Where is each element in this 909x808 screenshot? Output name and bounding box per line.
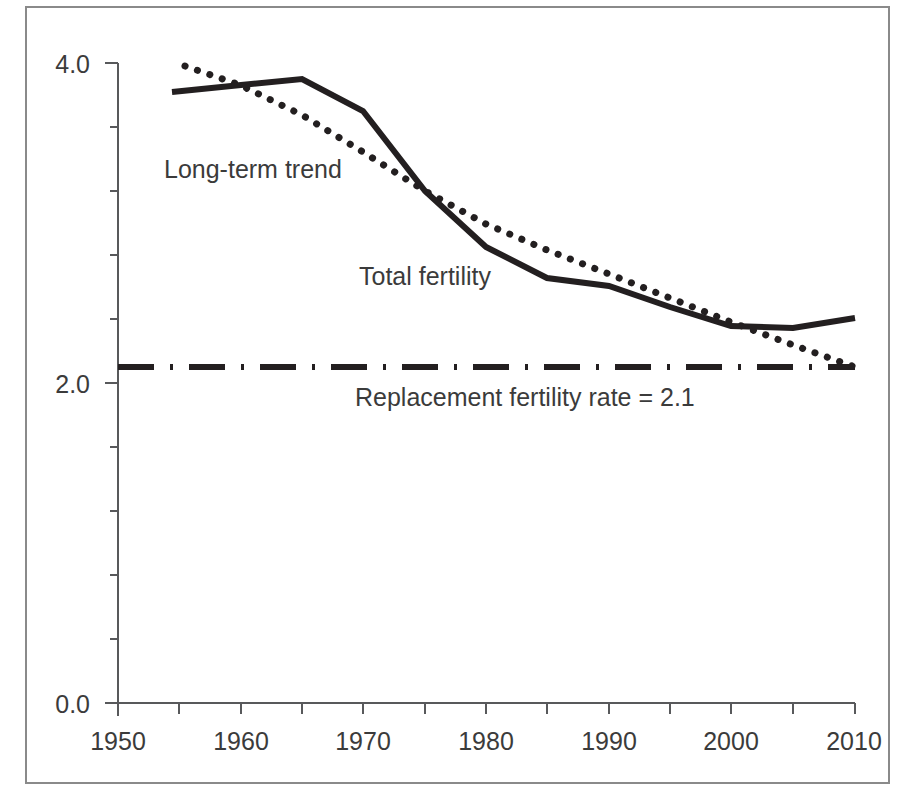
x-tick-label-1990: 1990 — [564, 727, 654, 756]
fertility-chart-figure: 4.0 2.0 0.0 1950 1960 1970 1980 1990 200… — [0, 0, 909, 808]
x-tick-label-2000: 2000 — [686, 727, 776, 756]
series-long-term-trend — [185, 66, 855, 367]
x-tick-label-1980: 1980 — [441, 727, 531, 756]
y-tick-label-2: 2.0 — [10, 370, 90, 399]
x-tick-label-1950: 1950 — [73, 727, 163, 756]
y-tick-label-4: 4.0 — [10, 50, 90, 79]
x-axis-ticks — [118, 703, 855, 716]
x-tick-label-1960: 1960 — [196, 727, 286, 756]
y-tick-label-0: 0.0 — [10, 690, 90, 719]
series-total-fertility — [172, 79, 855, 328]
annotation-total-fertility: Total fertility — [359, 262, 491, 291]
x-tick-label-1970: 1970 — [318, 727, 408, 756]
y-axis-major-ticks — [105, 63, 118, 703]
x-tick-label-2010: 2010 — [809, 727, 899, 756]
annotation-long-term-trend: Long-term trend — [164, 155, 342, 184]
annotation-replacement-rate: Replacement fertility rate = 2.1 — [355, 383, 695, 412]
